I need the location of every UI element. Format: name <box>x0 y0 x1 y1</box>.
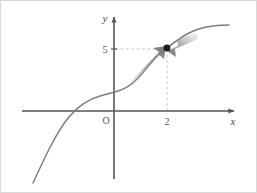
axes-group <box>22 17 234 179</box>
graph-figure: y x O 5 2 <box>0 0 257 193</box>
marked-point-dot <box>164 45 171 52</box>
marked-point-group <box>164 45 171 52</box>
arrow-from-lower-left <box>131 46 166 85</box>
x-tick-label-2: 2 <box>165 116 170 127</box>
function-curve <box>33 25 229 183</box>
y-tick-label-5: 5 <box>103 44 108 55</box>
guide-lines <box>115 49 167 111</box>
annotation-arrows <box>131 33 198 85</box>
curve-path <box>33 25 229 183</box>
x-axis-label: x <box>230 115 236 127</box>
y-axis-label: y <box>102 12 108 24</box>
plot-canvas: y x O 5 2 <box>1 1 257 193</box>
origin-label: O <box>102 115 109 126</box>
